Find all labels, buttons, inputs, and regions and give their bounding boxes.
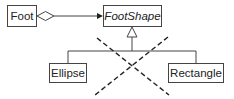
class-footshape: FootShape [103, 5, 162, 27]
class-rectangle-label: Rectangle [170, 67, 222, 79]
aggregation-diamond-icon [37, 12, 54, 21]
class-footshape-label: FootShape [104, 10, 160, 22]
class-ellipse-label: Ellipse [51, 67, 85, 79]
generalization-triangle-icon [127, 27, 137, 37]
class-foot: Foot [7, 5, 37, 27]
class-foot-label: Foot [10, 10, 33, 22]
dashed-cross-line-1 [97, 38, 169, 95]
class-ellipse: Ellipse [49, 63, 87, 83]
class-rectangle: Rectangle [168, 63, 224, 83]
